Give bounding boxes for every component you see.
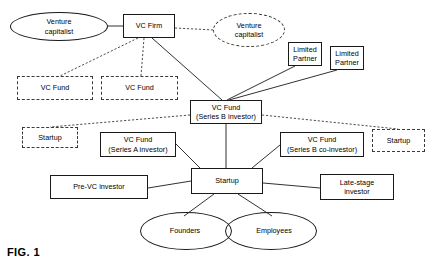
figure-label: FIG. 1 bbox=[7, 246, 40, 258]
node-startup-prospective-right[interactable]: Startup bbox=[372, 129, 425, 152]
node-venture-capitalist-prospective[interactable]: Venture capitalist bbox=[213, 13, 285, 47]
node-label: VC Fund (Series B investor) bbox=[195, 103, 257, 121]
node-label: Limited Partner bbox=[292, 45, 318, 63]
node-label: Startup bbox=[214, 176, 240, 185]
node-label: Venture capitalist bbox=[44, 17, 74, 35]
node-label: Limited Partner bbox=[334, 49, 360, 67]
node-label: VC Fund bbox=[124, 83, 155, 92]
node-label: Startup bbox=[37, 133, 63, 142]
node-limited-partner-1[interactable]: Limited Partner bbox=[288, 42, 322, 66]
node-startup-center[interactable]: Startup bbox=[191, 168, 263, 194]
venn-label-founders: Founders bbox=[156, 226, 214, 235]
node-limited-partner-2[interactable]: Limited Partner bbox=[330, 46, 364, 70]
edge-prevc-to-startup bbox=[148, 181, 191, 188]
node-vc-firm[interactable]: VC Firm bbox=[123, 14, 175, 38]
edge-startup-to-latestage bbox=[263, 183, 320, 188]
node-vc-fund-series-a-investor[interactable]: VC Fund (Series A investor) bbox=[100, 132, 176, 157]
node-late-stage-investor[interactable]: Late-stage investor bbox=[320, 174, 394, 200]
node-label: VC Firm bbox=[135, 21, 164, 30]
node-label: VC Fund (Series B co-investor) bbox=[286, 135, 358, 153]
node-label: VC Fund bbox=[40, 83, 71, 92]
venn-label-employees: Employees bbox=[244, 226, 304, 235]
figure-canvas: Venture capitalist VC Firm Venture capit… bbox=[0, 0, 435, 270]
edge-lp1-to-seriesb bbox=[227, 66, 295, 100]
node-label: Venture capitalist bbox=[234, 21, 264, 39]
node-label: Startup bbox=[386, 136, 412, 145]
edge-firm-to-fund-dashed-1 bbox=[60, 38, 138, 76]
edge-seriesb-to-startup-dashed-right bbox=[262, 115, 398, 129]
edge-lp2-to-seriesb bbox=[229, 70, 337, 100]
edge-seriesbco-to-startup bbox=[252, 145, 280, 168]
edge-firm-to-fund-dashed-2 bbox=[141, 38, 144, 76]
node-label: VC Fund (Series A investor) bbox=[107, 135, 168, 153]
node-vc-fund-prospective-1[interactable]: VC Fund bbox=[17, 76, 93, 100]
edge-seriesb-to-startup-dashed-left bbox=[50, 115, 190, 127]
node-pre-vc-investor[interactable]: Pre-VC investor bbox=[50, 175, 148, 199]
node-vc-fund-prospective-2[interactable]: VC Fund bbox=[101, 76, 178, 100]
node-vc-fund-series-b-investor[interactable]: VC Fund (Series B investor) bbox=[190, 100, 262, 124]
node-label: Pre-VC investor bbox=[72, 182, 125, 191]
edge-seriesa-to-startup bbox=[176, 144, 200, 168]
edge-firm-to-vc-dashed bbox=[175, 28, 214, 30]
node-vc-fund-series-b-co-investor[interactable]: VC Fund (Series B co-investor) bbox=[280, 132, 364, 157]
node-label: Late-stage investor bbox=[339, 178, 375, 196]
node-venture-capitalist[interactable]: Venture capitalist bbox=[10, 12, 108, 41]
node-startup-prospective-left[interactable]: Startup bbox=[22, 127, 78, 148]
